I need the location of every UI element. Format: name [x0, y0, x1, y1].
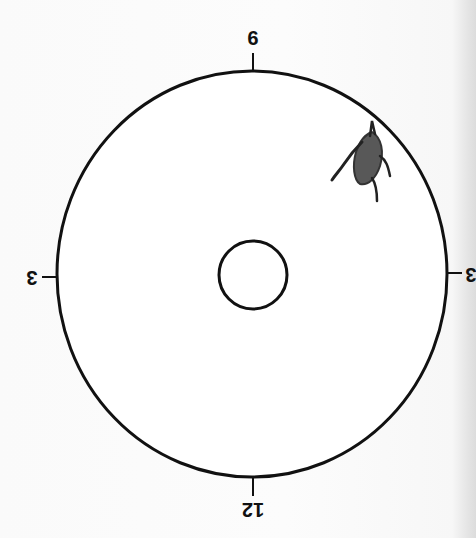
clock-diagram: 9 3 3 12: [0, 0, 476, 538]
label-right: 3: [465, 264, 476, 286]
label-top: 9: [247, 27, 258, 49]
label-bottom: 12: [242, 499, 264, 521]
inner-circle: [219, 241, 287, 309]
diagram-page: 9 3 3 12: [0, 0, 476, 538]
label-left: 3: [26, 267, 37, 289]
